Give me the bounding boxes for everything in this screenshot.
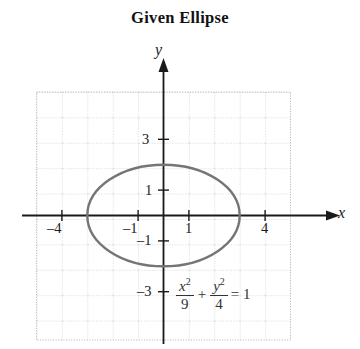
numerator-x-variable: x: [179, 278, 186, 294]
numerator-y-squared: y2: [210, 277, 228, 295]
y-tick-label-neg1: –1: [137, 232, 152, 249]
denominator-4: 4: [215, 296, 223, 312]
equals-one: = 1: [231, 286, 251, 303]
y-tick-label-1: 1: [145, 182, 152, 199]
x-tick-label-neg4: –4: [47, 220, 62, 237]
denominator-9: 9: [181, 296, 189, 312]
ellipse-figure: Given Ellipse: [0, 0, 360, 349]
plus-operator: +: [197, 286, 207, 303]
equation-annotation: x2 9 + y2 4 = 1: [176, 277, 251, 312]
numerator-x-squared: x2: [176, 277, 194, 295]
y-tick-label-neg3: –3: [137, 283, 152, 300]
y-tick-label-3: 3: [142, 131, 149, 148]
x-tick-label-neg1: –1: [123, 220, 138, 237]
x-tick-label-1: 1: [185, 220, 192, 237]
numerator-x-exponent: 2: [186, 276, 191, 287]
fraction-x-squared-over-9: x2 9: [176, 277, 194, 312]
numerator-y-variable: y: [213, 278, 220, 294]
x-tick-label-4: 4: [261, 220, 268, 237]
numerator-y-exponent: 2: [220, 276, 225, 287]
x-axis-label: x: [338, 204, 345, 222]
y-axis-label: y: [155, 41, 162, 59]
fraction-y-squared-over-4: y2 4: [210, 277, 228, 312]
